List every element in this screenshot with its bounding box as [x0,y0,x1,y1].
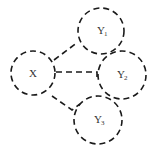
node-y3-subscript: 3 [101,119,105,127]
edge-x-y1 [54,42,78,60]
node-x: X [11,51,55,95]
node-y3: Y 3 [74,96,122,144]
edge-x-y3 [52,96,80,110]
causal-diagram: X Y 1 Y 2 Y 3 [0,0,159,151]
node-y2: Y 2 [98,51,146,99]
node-x-label: X [29,67,37,79]
edge-x-y2 [56,72,97,80]
node-y2-subscript: 2 [124,74,128,82]
node-y1: Y 1 [78,8,124,54]
node-y1-subscript: 1 [104,30,108,38]
